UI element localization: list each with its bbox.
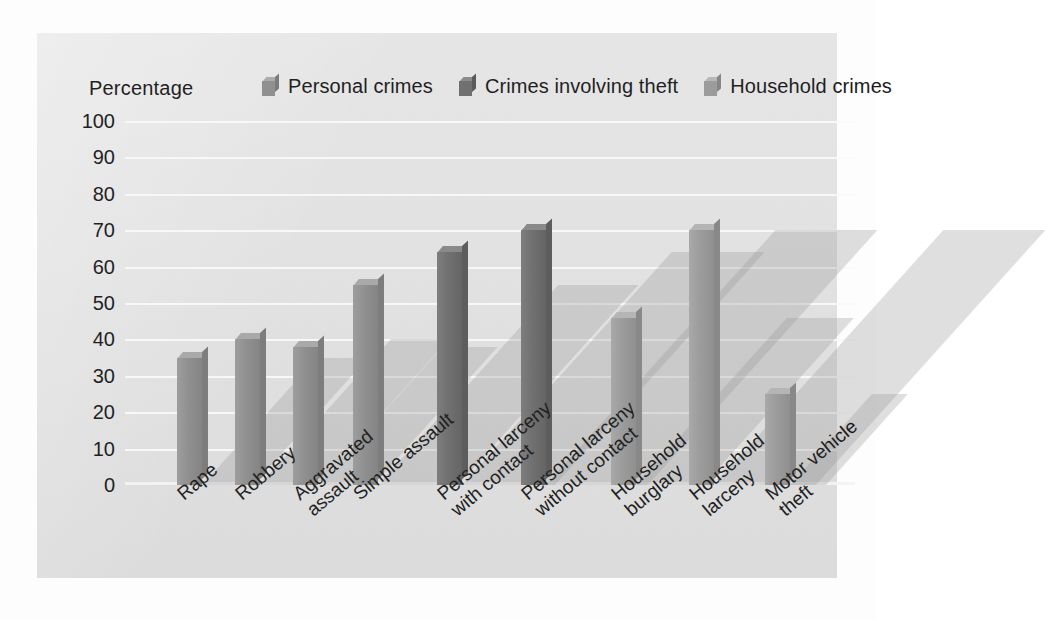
x-axis-labels: RapeRobberyAggravatedassaultSimple assau…	[125, 488, 885, 620]
y-axis-tick-label: 60	[93, 255, 115, 278]
y-axis-tick-label: 100	[82, 110, 115, 133]
legend-swatch-cube-icon	[262, 77, 279, 96]
bar-front-face	[437, 252, 462, 485]
y-axis-tick-label: 70	[93, 219, 115, 242]
y-axis-tick-label: 30	[93, 364, 115, 387]
bar-side-face	[260, 328, 266, 479]
plot-area: 1009080706050403020100	[125, 121, 855, 485]
legend-item-label: Household crimes	[730, 75, 892, 98]
legend-item[interactable]: Crimes involving theft	[459, 75, 678, 98]
gridline	[125, 157, 855, 159]
bar[interactable]	[293, 347, 318, 485]
legend-item[interactable]: Personal crimes	[262, 75, 433, 98]
y-axis-tick-label: 40	[93, 328, 115, 351]
bar-front-face	[293, 347, 318, 485]
y-axis-tick-label: 20	[93, 401, 115, 424]
gridline	[125, 230, 855, 232]
y-axis-title: Percentage	[89, 77, 193, 100]
chart-panel: Percentage Personal crimesCrimes involvi…	[37, 33, 837, 578]
y-axis-tick-label: 0	[104, 474, 115, 497]
bar-side-face	[714, 219, 720, 479]
legend-item-label: Crimes involving theft	[485, 75, 678, 98]
gridline	[125, 194, 855, 196]
legend-item-label: Personal crimes	[288, 75, 433, 98]
bar-front-face	[235, 339, 260, 485]
y-axis-tick-label: 50	[93, 292, 115, 315]
gridline	[125, 121, 855, 123]
y-axis-tick-label: 10	[93, 437, 115, 460]
chart-legend: Personal crimesCrimes involving theftHou…	[262, 75, 892, 98]
bar-front-face	[689, 230, 714, 485]
legend-swatch-cube-icon	[704, 77, 721, 96]
bar-side-face	[636, 306, 642, 479]
y-axis-tick-label: 80	[93, 182, 115, 205]
bar[interactable]	[437, 252, 462, 485]
bar[interactable]	[689, 230, 714, 485]
bar-side-face	[318, 335, 324, 479]
y-axis-tick-label: 90	[93, 146, 115, 169]
legend-item[interactable]: Household crimes	[704, 75, 892, 98]
legend-swatch-cube-icon	[459, 77, 476, 96]
bar[interactable]	[235, 339, 260, 485]
bar-side-face	[462, 241, 468, 479]
